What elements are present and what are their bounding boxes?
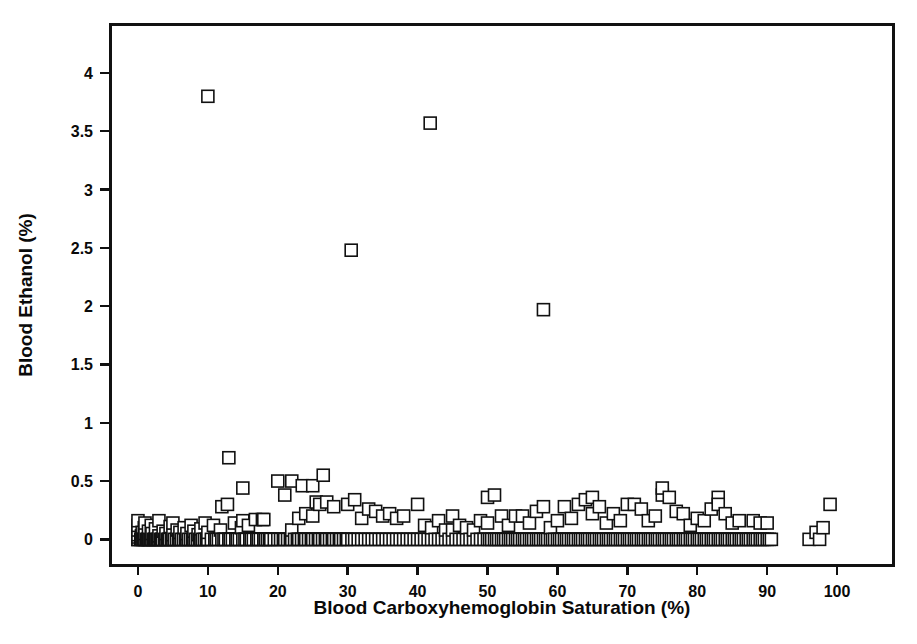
y-axis-tick-labels: 00.511.522.533.54: [71, 65, 93, 548]
y-tick-label: 4: [84, 65, 93, 82]
data-point-marker: [565, 512, 577, 524]
data-point-marker: [733, 515, 745, 527]
x-tick-label: 10: [199, 583, 217, 600]
y-tick-label: 2: [84, 298, 93, 315]
data-point-marker: [489, 489, 501, 501]
y-tick-label: 3: [84, 182, 93, 199]
data-point-marker: [307, 510, 319, 522]
data-point-marker: [279, 489, 291, 501]
data-point-marker: [824, 498, 836, 510]
y-tick-label: 2.5: [71, 240, 93, 257]
data-point-marker: [551, 515, 563, 527]
data-point-marker: [482, 517, 494, 529]
data-point-marker: [424, 117, 436, 129]
x-axis-title: Blood Carboxyhemoglobin Saturation (%): [314, 597, 691, 618]
data-point-marker: [558, 501, 570, 513]
y-tick-label: 1.5: [71, 356, 93, 373]
data-point-marker: [614, 515, 626, 527]
y-tick-label: 1: [84, 415, 93, 432]
data-point-marker: [765, 533, 777, 545]
scatter-points: [132, 90, 836, 545]
x-tick-label: 80: [688, 583, 706, 600]
data-point-marker: [345, 244, 357, 256]
data-point-marker: [761, 517, 773, 529]
data-point-marker: [698, 515, 710, 527]
data-point-marker: [677, 508, 689, 520]
x-tick-label: 100: [824, 583, 851, 600]
y-tick-label: 0.5: [71, 473, 93, 490]
x-tick-label: 20: [269, 583, 287, 600]
data-point-marker: [202, 90, 214, 102]
data-point-marker: [412, 498, 424, 510]
data-point-marker: [814, 533, 826, 545]
plot-frame: [110, 24, 893, 565]
data-point-marker: [349, 494, 361, 506]
x-tick-label: 0: [134, 583, 143, 600]
data-point-marker: [223, 452, 235, 464]
data-point-marker: [537, 501, 549, 513]
data-point-marker: [663, 491, 675, 503]
data-point-marker: [635, 503, 647, 515]
data-point-marker: [817, 522, 829, 534]
data-point-marker: [258, 514, 270, 526]
data-point-marker: [221, 498, 233, 510]
y-axis-title: Blood Ethanol (%): [15, 213, 36, 377]
data-point-marker: [523, 517, 535, 529]
data-point-marker: [649, 510, 661, 522]
data-point-marker: [237, 482, 249, 494]
scatter-plot-figure: 0102030405060708090100 00.511.522.533.54…: [0, 0, 917, 644]
y-tick-label: 3.5: [71, 123, 93, 140]
plot-canvas: 0102030405060708090100 00.511.522.533.54…: [0, 0, 917, 644]
data-point-marker: [272, 475, 284, 487]
x-tick-label: 90: [758, 583, 776, 600]
data-point-marker: [537, 304, 549, 316]
data-point-marker: [593, 501, 605, 513]
data-point-marker: [317, 469, 329, 481]
y-tick-label: 0: [84, 531, 93, 548]
data-point-marker: [328, 501, 340, 513]
data-point-marker: [398, 510, 410, 522]
